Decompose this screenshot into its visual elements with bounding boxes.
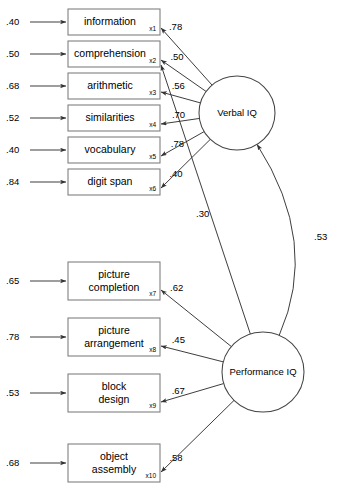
residual-value-x2: .50 xyxy=(6,48,19,59)
indicator-box-group: informationx1comprehensionx2arithmeticx3… xyxy=(68,9,160,482)
residual-value-x5: .40 xyxy=(6,144,19,155)
indicator-label-x9-line2: design xyxy=(99,393,130,405)
indicator-subscript-x10: x10 xyxy=(146,472,157,479)
loading-value-x7: .62 xyxy=(170,282,183,293)
indicator-subscript-x9: x9 xyxy=(149,402,156,409)
sem-path-diagram: informationx1comprehensionx2arithmeticx3… xyxy=(0,0,337,491)
residual-value-x4: .52 xyxy=(6,112,19,123)
latent-ellipse-group: Verbal IQPerformance IQ xyxy=(199,76,304,412)
residual-arrow-group xyxy=(30,22,66,463)
indicator-label-x1: information xyxy=(84,15,136,27)
residual-value-x8: .78 xyxy=(6,331,19,342)
loading-value-x8: .45 xyxy=(172,334,185,345)
loading-value-x9: .67 xyxy=(172,385,185,396)
loading-value-x1: .78 xyxy=(169,21,182,32)
indicator-label-x7-line1: picture xyxy=(98,268,130,280)
indicator-subscript-x8: x8 xyxy=(149,346,156,353)
indicator-label-x9-line1: block xyxy=(102,380,127,392)
indicator-subscript-x6: x6 xyxy=(149,185,156,192)
covariance-value: .53 xyxy=(314,231,327,242)
loading-arrow-x6 xyxy=(161,139,210,188)
residual-value-x7: .65 xyxy=(6,275,19,286)
indicator-label-x2: comprehension xyxy=(74,47,146,59)
indicator-subscript-x5: x5 xyxy=(149,153,156,160)
loading-value-x3: .56 xyxy=(172,80,185,91)
indicator-label-x7-line2: completion xyxy=(89,281,140,293)
indicator-label-x8-line1: picture xyxy=(98,324,130,336)
indicator-label-x6: digit span xyxy=(88,175,133,187)
latent-label-verbal: Verbal IQ xyxy=(217,107,257,118)
loading-value-x2: .50 xyxy=(170,51,183,62)
loading-value-x10: .58 xyxy=(169,452,182,463)
indicator-subscript-x4: x4 xyxy=(149,121,156,128)
residual-value-x10: .68 xyxy=(6,457,19,468)
path-diagram-canvas: informationx1comprehensionx2arithmeticx3… xyxy=(0,0,337,491)
residual-value-x3: .68 xyxy=(6,80,19,91)
loading-value-x5: .78 xyxy=(171,138,184,149)
loading-arrow-x3 xyxy=(161,92,200,103)
indicator-label-x3: arithmetic xyxy=(87,79,133,91)
indicator-label-x4: similarities xyxy=(85,111,134,123)
cross-loading-value: .30 xyxy=(196,208,209,219)
loading-arrow-x9 xyxy=(161,384,224,402)
latent-label-performance: Performance IQ xyxy=(229,366,296,377)
loading-value-x6: .40 xyxy=(169,168,182,179)
indicator-subscript-x7: x7 xyxy=(149,290,156,297)
indicator-label-x10-line2: assembly xyxy=(92,463,137,475)
indicator-subscript-x1: x1 xyxy=(149,25,156,32)
loading-arrow-x1 xyxy=(161,28,212,85)
residual-value-x6: .84 xyxy=(6,176,19,187)
indicator-subscript-x2: x2 xyxy=(149,57,156,64)
loading-arrow-x8 xyxy=(161,346,223,362)
residual-value-x9: .53 xyxy=(6,387,19,398)
loading-value-x4: .70 xyxy=(172,109,185,120)
indicator-label-x8-line2: arrangement xyxy=(84,337,144,349)
residual-value-x1: .40 xyxy=(6,16,19,27)
indicator-label-x5: vocabulary xyxy=(85,143,137,155)
covariance-curve xyxy=(257,144,295,335)
indicator-subscript-x3: x3 xyxy=(149,89,156,96)
indicator-label-x10-line1: object xyxy=(100,450,128,462)
covariance-arrow-group xyxy=(257,144,295,335)
